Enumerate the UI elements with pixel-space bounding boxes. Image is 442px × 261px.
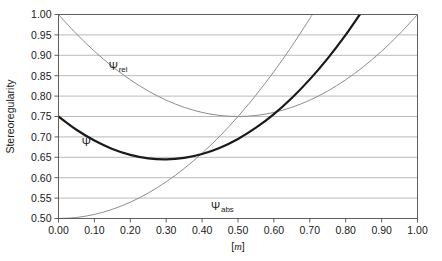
y-tick-label: 0.95	[31, 29, 52, 41]
curve-label-subscript: rel	[119, 65, 128, 74]
x-tick-label: 0.20	[120, 224, 141, 236]
curve-label-subscript: abs	[221, 205, 234, 214]
x-tick-label: 0.40	[192, 224, 213, 236]
x-tick-label: 0.10	[84, 224, 105, 236]
psi-glyph: Ψ	[109, 60, 118, 72]
x-tick-label: 0.30	[156, 224, 177, 236]
y-tick-label: 0.65	[31, 151, 52, 163]
y-tick-label: 0.70	[31, 131, 52, 143]
y-tick-label: 0.90	[31, 49, 52, 61]
y-tick-label: 0.80	[31, 90, 52, 102]
y-axis-tick-labels: 0.500.550.600.650.700.750.800.850.900.95…	[31, 8, 52, 224]
chart-container: 0.000.100.200.300.400.500.600.700.800.90…	[0, 0, 442, 261]
x-tick-label: 0.80	[335, 224, 356, 236]
psi-glyph: Ψ	[211, 200, 220, 212]
y-tick-label: 0.85	[31, 70, 52, 82]
curve-label-psi: Ψ	[82, 136, 91, 148]
unit-bracket-close: ]	[242, 240, 245, 252]
x-tick-label: 0.00	[48, 224, 69, 236]
x-tick-label: 0.60	[264, 224, 285, 236]
y-tick-label: 1.00	[31, 8, 52, 20]
y-tick-label: 0.75	[31, 110, 52, 122]
x-tick-label: 0.50	[228, 224, 249, 236]
y-tick-label: 0.60	[31, 172, 52, 184]
y-tick-label: 0.55	[31, 192, 52, 204]
x-tick-label: 0.70	[300, 224, 321, 236]
stereoregularity-line-chart: 0.000.100.200.300.400.500.600.700.800.90…	[0, 0, 442, 261]
y-tick-label: 0.50	[31, 212, 52, 224]
x-tick-label: 1.00	[407, 224, 428, 236]
psi-glyph: Ψ	[82, 136, 91, 148]
y-axis-title: Stereoregularity	[4, 79, 16, 154]
x-tick-label: 0.90	[371, 224, 392, 236]
x-axis-title: [m]	[231, 240, 245, 252]
